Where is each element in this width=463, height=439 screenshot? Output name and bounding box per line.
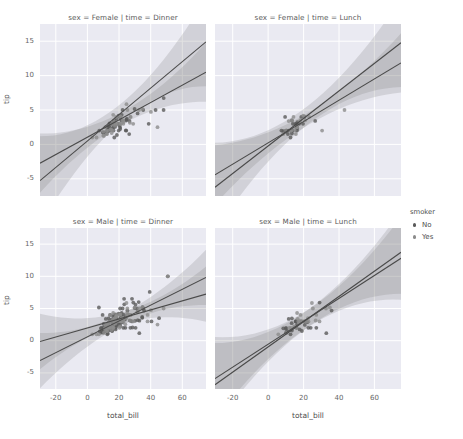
panel-plot-area-female-lunch bbox=[215, 24, 401, 196]
panel-female-dinner[interactable] bbox=[40, 24, 206, 196]
x-tick-right-40: 40 bbox=[324, 394, 354, 404]
y-tick-label: 5 bbox=[14, 106, 34, 114]
facet-title-male-dinner: sex = Male | time = Dinner bbox=[40, 217, 206, 226]
x-tick-right-20: 20 bbox=[289, 394, 319, 404]
legend-label-yes: Yes bbox=[422, 233, 433, 241]
legend-title: smoker bbox=[410, 208, 462, 216]
y-tick-top-0: 0 bbox=[14, 140, 34, 149]
y-tick-label: 15 bbox=[14, 37, 34, 45]
x-tick-label: -20 bbox=[218, 394, 248, 402]
x-tick-left-40: 40 bbox=[136, 394, 166, 404]
x-tick-label: 60 bbox=[359, 394, 389, 402]
y-tick-label: -5 bbox=[14, 174, 34, 182]
y-tick-bottom-10: 10 bbox=[14, 272, 34, 281]
legend-item-no[interactable]: No bbox=[410, 219, 462, 231]
facet-grid-figure: sex = Female | time = Dinner sex = Femal… bbox=[0, 0, 463, 439]
legend-item-yes[interactable]: Yes bbox=[410, 231, 462, 243]
y-tick-label: 0 bbox=[14, 336, 34, 344]
y-tick-top-5: 5 bbox=[14, 106, 34, 115]
legend-marker-no-icon bbox=[410, 221, 419, 230]
panel-male-lunch[interactable] bbox=[215, 228, 401, 389]
x-tick-label: 20 bbox=[289, 394, 319, 402]
y-axis-label-top: tip bbox=[2, 94, 11, 104]
x-tick-left-0: 0 bbox=[72, 394, 102, 404]
x-tick-label: 0 bbox=[72, 394, 102, 402]
y-tick-top-10: 10 bbox=[14, 71, 34, 80]
y-tick-bottom-15: 15 bbox=[14, 240, 34, 249]
y-tick-bottom-0: 0 bbox=[14, 336, 34, 345]
y-tick-label: 10 bbox=[14, 272, 34, 280]
y-tick-bottom--5: -5 bbox=[14, 368, 34, 377]
x-tick-label: 40 bbox=[324, 394, 354, 402]
x-axis-label-right: total_bill bbox=[215, 411, 401, 420]
x-tick-label: 0 bbox=[253, 394, 283, 402]
panel-plot-area-female-dinner bbox=[40, 24, 206, 196]
panel-male-dinner[interactable] bbox=[40, 228, 206, 389]
x-tick-left-60: 60 bbox=[167, 394, 197, 404]
y-tick-label: -5 bbox=[14, 368, 34, 376]
x-tick-left-neg20: -20 bbox=[41, 394, 71, 404]
legend: smoker No Yes bbox=[410, 208, 462, 243]
x-tick-right-0: 0 bbox=[253, 394, 283, 404]
y-tick-label: 0 bbox=[14, 140, 34, 148]
x-axis-label-left: total_bill bbox=[40, 411, 206, 420]
y-tick-bottom-5: 5 bbox=[14, 304, 34, 313]
x-tick-right-neg20: -20 bbox=[218, 394, 248, 404]
y-tick-label: 10 bbox=[14, 71, 34, 79]
x-tick-right-60: 60 bbox=[359, 394, 389, 404]
x-tick-label: -20 bbox=[41, 394, 71, 402]
facet-title-female-lunch: sex = Female | time = Lunch bbox=[215, 13, 401, 22]
facet-title-female-dinner: sex = Female | time = Dinner bbox=[40, 13, 206, 22]
x-tick-label: 20 bbox=[104, 394, 134, 402]
y-tick-top-15: 15 bbox=[14, 37, 34, 46]
legend-marker-yes-icon bbox=[410, 233, 419, 242]
x-tick-label: 40 bbox=[136, 394, 166, 402]
x-tick-left-20: 20 bbox=[104, 394, 134, 404]
y-tick-top--5: -5 bbox=[14, 174, 34, 183]
y-tick-label: 5 bbox=[14, 304, 34, 312]
panel-plot-area-male-lunch bbox=[215, 228, 401, 389]
legend-label-no: No bbox=[422, 221, 432, 229]
y-axis-label-bottom: tip bbox=[2, 295, 11, 305]
panel-female-lunch[interactable] bbox=[215, 24, 401, 196]
x-tick-label: 60 bbox=[167, 394, 197, 402]
panel-plot-area-male-dinner bbox=[40, 228, 206, 389]
facet-title-male-lunch: sex = Male | time = Lunch bbox=[215, 217, 401, 226]
y-tick-label: 15 bbox=[14, 240, 34, 248]
